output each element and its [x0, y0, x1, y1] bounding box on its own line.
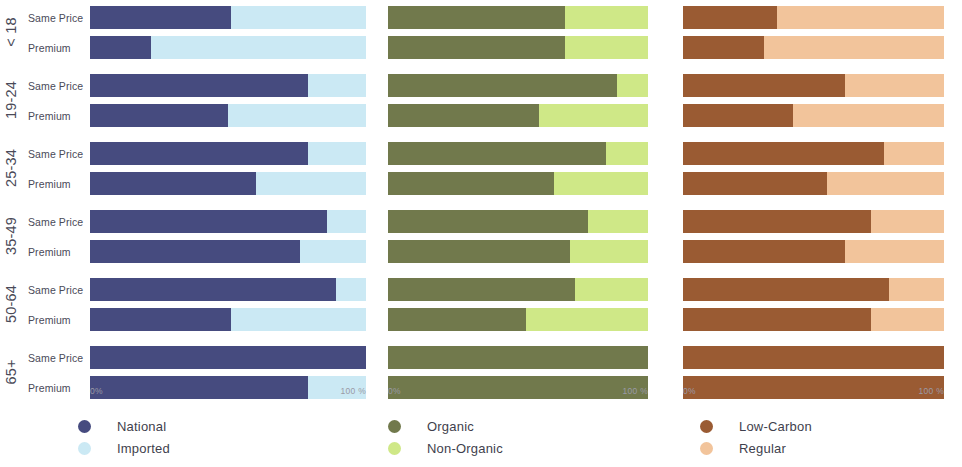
bar-segment-non-organic — [588, 210, 648, 233]
bar-segment-regular — [793, 104, 944, 127]
plot-area — [683, 0, 944, 390]
bar-track — [90, 278, 366, 301]
bar-segment-organic — [388, 142, 606, 165]
bar-segment-non-organic — [606, 142, 648, 165]
legend-column: OrganicNon-Organic — [388, 415, 503, 459]
bar-segment-imported — [300, 240, 366, 263]
bar-segment-regular — [871, 308, 944, 331]
bar-track — [90, 36, 366, 59]
bar-row: Same Price — [90, 278, 366, 301]
bar-segment-regular — [845, 74, 944, 97]
bar-segment-regular — [777, 6, 944, 29]
bar-label-same-price: Same Price — [28, 12, 83, 24]
bar-row — [388, 346, 648, 369]
bar-row — [388, 142, 648, 165]
x-axis-tick-max: 100 % — [918, 386, 944, 396]
bar-row — [683, 36, 944, 59]
bar-track — [683, 278, 944, 301]
bar-segment-organic — [388, 172, 554, 195]
age-group-label: 35-49 — [0, 202, 22, 270]
bar-segment-national — [90, 346, 366, 369]
bar-row — [388, 278, 648, 301]
bar-track — [683, 346, 944, 369]
bar-track — [388, 308, 648, 331]
bar-segment-imported — [231, 308, 366, 331]
age-band — [388, 276, 648, 332]
bar-segment-non-organic — [570, 240, 648, 263]
bar-row: Premium — [90, 172, 366, 195]
legend-item[interactable]: National — [78, 415, 170, 437]
bar-segment-low-carbon — [683, 346, 944, 369]
bar-segment-non-organic — [575, 278, 648, 301]
bar-segment-low-carbon — [683, 278, 889, 301]
bar-segment-low-carbon — [683, 308, 871, 331]
bar-label-premium: Premium — [28, 246, 71, 258]
bar-row — [388, 172, 648, 195]
bar-row — [683, 142, 944, 165]
legend-swatch-icon — [700, 442, 713, 455]
age-band — [388, 72, 648, 128]
plot-area: Same PricePremiumSame PricePremiumSame P… — [90, 0, 366, 390]
bar-segment-organic — [388, 240, 570, 263]
age-group-label: 50-64 — [0, 270, 22, 338]
bar-segment-non-organic — [539, 104, 648, 127]
bar-segment-national — [90, 36, 151, 59]
age-band — [683, 276, 944, 332]
bar-segment-regular — [827, 172, 944, 195]
bar-segment-organic — [388, 308, 526, 331]
bar-segment-organic — [388, 278, 575, 301]
bar-segment-non-organic — [565, 6, 648, 29]
bar-label-same-price: Same Price — [28, 352, 83, 364]
bar-segment-low-carbon — [683, 210, 871, 233]
bar-label-premium: Premium — [28, 382, 71, 394]
bar-segment-national — [90, 240, 300, 263]
bar-segment-national — [90, 6, 231, 29]
bar-track — [388, 74, 648, 97]
chart-legend: NationalImportedOrganicNon-OrganicLow-Ca… — [0, 415, 962, 467]
legend-item[interactable]: Organic — [388, 415, 503, 437]
age-group-label: 25-34 — [0, 134, 22, 202]
bar-track — [90, 6, 366, 29]
bar-segment-organic — [388, 210, 588, 233]
bar-track — [683, 172, 944, 195]
bar-label-same-price: Same Price — [28, 284, 83, 296]
legend-item[interactable]: Non-Organic — [388, 437, 503, 459]
bar-segment-imported — [308, 74, 366, 97]
legend-label: Regular — [739, 441, 786, 456]
legend-item[interactable]: Regular — [700, 437, 812, 459]
bar-segment-organic — [388, 104, 539, 127]
bar-track — [683, 6, 944, 29]
legend-item[interactable]: Imported — [78, 437, 170, 459]
bar-row — [388, 6, 648, 29]
legend-label: Low-Carbon — [739, 419, 812, 434]
bar-segment-organic — [388, 36, 565, 59]
legend-item[interactable]: Low-Carbon — [700, 415, 812, 437]
bar-label-premium: Premium — [28, 42, 71, 54]
age-band — [683, 72, 944, 128]
legend-column: Low-CarbonRegular — [700, 415, 812, 459]
bar-segment-national — [90, 142, 308, 165]
bar-row — [388, 74, 648, 97]
age-band: Same PricePremium — [90, 72, 366, 128]
x-axis: 0%100 % — [90, 386, 366, 400]
bar-track — [683, 36, 944, 59]
bar-row — [388, 308, 648, 331]
legend-swatch-icon — [78, 442, 91, 455]
legend-swatch-icon — [388, 420, 401, 433]
age-band — [683, 4, 944, 60]
legend-label: Non-Organic — [427, 441, 503, 456]
legend-swatch-icon — [78, 420, 91, 433]
bar-segment-imported — [308, 142, 366, 165]
age-band — [683, 140, 944, 196]
bar-segment-low-carbon — [683, 142, 884, 165]
bar-segment-imported — [151, 36, 366, 59]
bar-segment-imported — [228, 104, 366, 127]
bar-row — [683, 278, 944, 301]
bar-row: Same Price — [90, 6, 366, 29]
bar-label-same-price: Same Price — [28, 148, 83, 160]
bar-track — [90, 172, 366, 195]
bar-segment-imported — [327, 210, 366, 233]
x-axis-tick-min: 0% — [90, 386, 103, 396]
bar-segment-low-carbon — [683, 74, 845, 97]
age-band: Same PricePremium — [90, 208, 366, 264]
